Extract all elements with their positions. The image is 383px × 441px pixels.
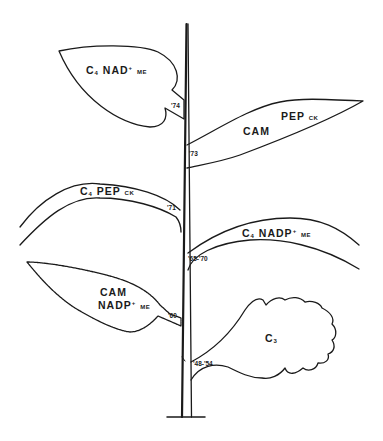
label-cam-2: CAM: [100, 287, 127, 298]
year-cam-nadp-me: '60: [168, 313, 177, 320]
label-pep-ck: PEP CK: [281, 111, 318, 122]
plant-diagram: C4 NAD+ ME '74 CAM PEP CK '73 C4 PEP CK …: [0, 0, 383, 441]
label-c4-nad-me: C4 NAD+ ME: [86, 65, 147, 76]
leaf-c4-nad-me: [59, 46, 184, 127]
year-c4-nadp-me: '65-'70: [188, 256, 208, 263]
leaf-c3: [191, 298, 336, 380]
label-c3: C3: [265, 333, 278, 344]
stem: [167, 24, 205, 417]
label-c4-pep-ck: C4 PEP CK: [80, 186, 134, 197]
leaf-cam-pep-ck: [187, 99, 363, 168]
year-c4-nad-me: '74: [171, 103, 180, 110]
label-nadp-me: NADP+ ME: [98, 300, 150, 311]
label-c4-nadp-me: C4 NADP+ ME: [242, 228, 311, 239]
year-cam-pep-ck: '73: [189, 151, 198, 158]
year-c4-pep-ck: '71: [167, 205, 176, 212]
leaf-c4-nadp-me: [188, 218, 359, 270]
year-c3: '48-'54: [193, 361, 213, 368]
label-cam: CAM: [243, 126, 270, 137]
plant-drawing: [0, 0, 383, 441]
